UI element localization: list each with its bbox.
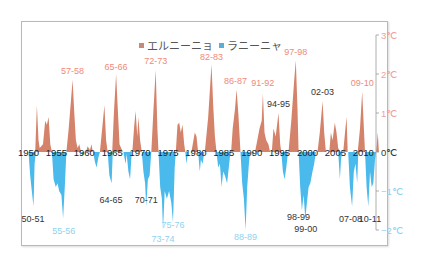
event-label: 98-99 <box>287 212 310 222</box>
y-tick-label: −2℃ <box>381 225 403 236</box>
event-label: 72-73 <box>144 56 167 66</box>
legend-swatch-la-nina <box>219 43 224 48</box>
event-label: 55-56 <box>52 226 75 236</box>
event-label: 57-58 <box>61 66 84 76</box>
event-label: 82-83 <box>200 52 223 62</box>
x-tick-label: 2005 <box>325 147 346 158</box>
event-label: 50-51 <box>21 214 44 224</box>
x-tick-label: 1990 <box>241 147 262 158</box>
la-nina-area <box>29 152 377 230</box>
y-tick-label: 1℃ <box>381 108 397 119</box>
event-label: 73-74 <box>151 234 174 244</box>
event-label: 88-89 <box>234 232 257 242</box>
x-tick-label: 1980 <box>185 147 206 158</box>
event-label: 94-95 <box>267 99 290 109</box>
event-label: 02-03 <box>311 87 334 97</box>
x-tick-label: 1950 <box>18 147 39 158</box>
x-tick-label: 1965 <box>102 147 123 158</box>
event-label: 75-76 <box>162 220 185 230</box>
x-tick-label: 1975 <box>157 147 178 158</box>
y-tick-label: 2℃ <box>381 69 397 80</box>
x-tick-label: 2010 <box>353 147 374 158</box>
event-label: 10-11 <box>359 214 381 224</box>
y-tick-label: −1℃ <box>381 186 403 197</box>
x-tick-label: 1955 <box>46 147 67 158</box>
event-label: 70-71 <box>135 195 158 205</box>
event-label: 97-98 <box>284 47 307 57</box>
legend-item-el-nino: エルニーニョ <box>139 37 213 53</box>
x-tick-label: 1995 <box>269 147 290 158</box>
chart-legend: エルニーニョ ラニーニャ <box>139 37 282 53</box>
y-tick-label: 0℃ <box>381 147 397 158</box>
legend-item-la-nina: ラニーニャ <box>219 37 282 53</box>
legend-label-el-nino: エルニーニョ <box>147 37 213 53</box>
legend-swatch-el-nino <box>139 43 144 48</box>
y-tick-label: 3℃ <box>381 30 397 41</box>
event-label: 91-92 <box>251 78 274 88</box>
legend-label-la-nina: ラニーニャ <box>227 37 282 53</box>
event-label: 64-65 <box>100 195 123 205</box>
event-label: 86-87 <box>224 76 247 86</box>
event-label: 65-66 <box>105 62 128 72</box>
x-tick-label: 1985 <box>213 147 234 158</box>
x-tick-label: 2000 <box>297 147 318 158</box>
x-tick-label: 1970 <box>130 147 151 158</box>
x-tick-label: 1960 <box>74 147 95 158</box>
event-label: 09-10 <box>351 78 374 88</box>
event-label: 99-00 <box>294 224 317 234</box>
